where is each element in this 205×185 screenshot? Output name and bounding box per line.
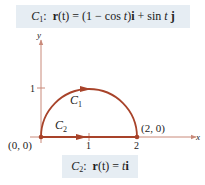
y-axis-label: y <box>36 30 41 40</box>
endpoint-point <box>135 135 140 140</box>
endpoint-label: (2, 0) <box>141 122 165 135</box>
c2-eq: = <box>109 159 122 173</box>
c2-arg: (t) <box>98 159 109 173</box>
c1-label: C1 <box>70 93 82 109</box>
c2-sep: : <box>83 159 86 173</box>
x-tick-label-1: 1 <box>86 140 91 151</box>
x-tick-label-2: 2 <box>134 140 139 151</box>
curve-c2-equation: C2: r(t) = ti <box>62 155 138 178</box>
y-tick-label-1: 1 <box>30 83 35 94</box>
origin-point <box>39 135 44 140</box>
c2-i: i <box>125 159 128 173</box>
c1-direction-arrow <box>80 86 91 92</box>
c2-label: C2 <box>55 118 67 134</box>
origin-label: (0, 0) <box>8 139 32 152</box>
x-axis-label: x <box>195 132 200 142</box>
